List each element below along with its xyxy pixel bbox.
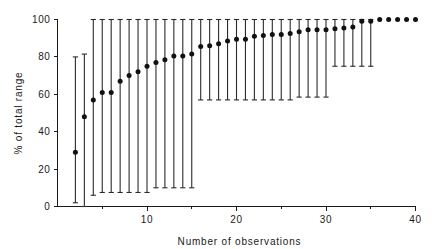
data-point (252, 34, 257, 39)
data-point (288, 31, 293, 36)
axis-labels-group: 02040608010010203040Number of observatio… (13, 14, 422, 247)
data-point (171, 53, 176, 58)
x-tick-label: 30 (320, 214, 332, 225)
data-point (341, 25, 346, 30)
data-point (350, 24, 355, 29)
data-point (216, 41, 221, 46)
data-point (189, 52, 194, 57)
data-point (225, 39, 230, 44)
data-point (332, 26, 337, 31)
y-tick-label: 0 (44, 201, 50, 212)
data-point (368, 19, 373, 24)
data-point (136, 69, 141, 74)
data-point (279, 32, 284, 37)
data-point (243, 37, 248, 42)
data-point (270, 32, 275, 37)
data-point (109, 90, 114, 95)
y-tick-label: 100 (32, 14, 51, 25)
data-point (413, 17, 418, 22)
chart-plot: 02040608010010203040Number of observatio… (0, 0, 438, 249)
y-tick-label: 60 (38, 89, 50, 100)
data-point (145, 64, 150, 69)
figure-container: 02040608010010203040Number of observatio… (0, 0, 438, 249)
x-tick-label: 40 (409, 214, 421, 225)
y-tick-label: 40 (38, 126, 50, 137)
x-tick-label: 20 (230, 214, 242, 225)
data-point (198, 44, 203, 49)
data-point (207, 43, 212, 48)
data-point (82, 114, 87, 119)
x-axis-title: Number of observations (178, 236, 302, 247)
data-point (386, 17, 391, 22)
data-point (73, 150, 78, 155)
data-point (297, 29, 302, 34)
y-axis-title: % of total range (13, 72, 24, 155)
data-point (261, 33, 266, 38)
x-tick-label: 10 (141, 214, 153, 225)
data-point (315, 27, 320, 32)
data-point (404, 17, 409, 22)
data-point (359, 19, 364, 24)
data-point (180, 53, 185, 58)
data-point (127, 73, 132, 78)
data-point (153, 60, 158, 65)
data-point (162, 57, 167, 62)
data-point (100, 90, 105, 95)
y-tick-label: 20 (38, 164, 50, 175)
data-point (377, 17, 382, 22)
errorbars-group (73, 20, 374, 207)
data-point (395, 17, 400, 22)
data-point (118, 79, 123, 84)
axes-group (54, 20, 416, 211)
data-point (306, 27, 311, 32)
y-tick-label: 80 (38, 51, 50, 62)
data-point (324, 27, 329, 32)
data-point (91, 97, 96, 102)
data-point (234, 37, 239, 42)
